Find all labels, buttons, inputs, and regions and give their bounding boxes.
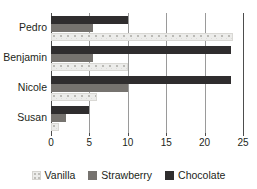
legend-label-vanilla: Vanilla: [45, 169, 76, 181]
x-tick-label-5: 5: [87, 137, 93, 149]
x-tick-15: [166, 133, 167, 136]
bar-susan-strawberry: [51, 114, 66, 122]
bar-pedro-vanilla: [51, 33, 233, 41]
category-label-nicole: Nicole: [18, 82, 47, 93]
bar-nicole-strawberry: [51, 84, 128, 92]
plot-area: [51, 13, 243, 133]
legend-item-strawberry: Strawberry: [88, 169, 152, 181]
bar-group: [51, 73, 243, 103]
bar-benjamin-chocolate: [51, 46, 231, 54]
x-tick-label-25: 25: [237, 137, 248, 149]
vanilla-swatch: [32, 171, 41, 180]
chart-legend: VanillaStrawberryChocolate: [0, 166, 257, 184]
legend-label-chocolate: Chocolate: [178, 169, 225, 181]
legend-item-chocolate: Chocolate: [165, 169, 225, 181]
bar-susan-chocolate: [51, 106, 89, 114]
legend-label-strawberry: Strawberry: [101, 169, 152, 181]
x-tick-20: [205, 133, 206, 136]
bar-group: [51, 103, 243, 133]
bar-nicole-vanilla: [51, 93, 97, 101]
bar-group: [51, 13, 243, 43]
x-tick-label-10: 10: [122, 137, 133, 149]
bar-susan-vanilla: [51, 123, 59, 131]
bar-chart: PedroBenjaminNicoleSusan 0510152025 Vani…: [0, 0, 257, 189]
x-tick-0: [51, 133, 52, 136]
category-axis: PedroBenjaminNicoleSusan: [0, 13, 47, 133]
bar-pedro-strawberry: [51, 24, 93, 32]
category-label-susan: Susan: [17, 112, 47, 123]
bar-benjamin-strawberry: [51, 54, 93, 62]
x-tick-25: [243, 133, 244, 136]
bar-pedro-chocolate: [51, 16, 128, 24]
bar-nicole-chocolate: [51, 76, 231, 84]
strawberry-swatch: [88, 171, 97, 180]
x-tick-label-15: 15: [161, 137, 172, 149]
category-label-pedro: Pedro: [19, 22, 47, 33]
gridline-25: [243, 13, 244, 133]
legend-item-vanilla: Vanilla: [32, 169, 76, 181]
bar-benjamin-vanilla: [51, 63, 128, 71]
x-axis: 0510152025: [51, 133, 243, 153]
x-tick-label-0: 0: [48, 137, 54, 149]
x-tick-label-20: 20: [199, 137, 210, 149]
chocolate-swatch: [165, 171, 174, 180]
x-tick-10: [128, 133, 129, 136]
category-label-benjamin: Benjamin: [3, 52, 47, 63]
bar-group: [51, 43, 243, 73]
x-tick-5: [89, 133, 90, 136]
